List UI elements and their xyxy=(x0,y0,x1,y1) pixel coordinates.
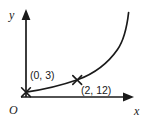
graph-figure: y x O (0, 3) (2, 12) xyxy=(0,0,149,121)
x-axis-label: x xyxy=(133,104,140,118)
labels-group: y x O (0, 3) (2, 12) xyxy=(8,8,140,118)
coordinate-plane-svg: y x O (0, 3) (2, 12) xyxy=(0,0,149,121)
y-axis-label: y xyxy=(8,8,15,22)
y-axis-arrowhead-icon xyxy=(22,9,31,20)
axes-group xyxy=(21,9,134,101)
x-axis-arrowhead-icon xyxy=(123,93,134,102)
origin-label: O xyxy=(9,103,18,117)
point-label-0-3: (0, 3) xyxy=(30,69,55,81)
point-label-2-12: (2, 12) xyxy=(81,84,111,96)
